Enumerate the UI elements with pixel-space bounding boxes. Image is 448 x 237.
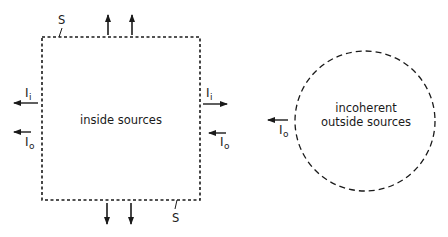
- right-outside-intensity: I o: [209, 133, 230, 151]
- svg-text:I: I: [25, 86, 29, 100]
- diagram-canvas: S S I i I o I i I o inside sources incoh…: [0, 0, 448, 237]
- outside-sources-label-line2: outside sources: [321, 115, 411, 129]
- left-inside-intensity: I i: [14, 86, 38, 103]
- svg-text:i: i: [29, 92, 32, 102]
- svg-text:I: I: [279, 123, 283, 137]
- svg-text:i: i: [210, 92, 213, 102]
- inside-sources-label: inside sources: [80, 113, 162, 127]
- circle-outside-intensity: I o: [268, 120, 289, 139]
- svg-text:I: I: [220, 135, 224, 149]
- svg-text:o: o: [224, 141, 230, 151]
- s-leader-bottom: [175, 200, 177, 209]
- s-leader-top: [59, 28, 62, 37]
- surface-label-bottom: S: [172, 211, 179, 225]
- outside-sources-label-line1: incoherent: [335, 101, 397, 115]
- svg-text:I: I: [206, 86, 210, 100]
- svg-text:o: o: [29, 141, 35, 151]
- left-outside-intensity: I o: [14, 132, 35, 151]
- svg-text:o: o: [283, 129, 289, 139]
- right-inside-intensity: I i: [203, 86, 227, 104]
- surface-label-top: S: [58, 13, 65, 27]
- svg-text:I: I: [25, 135, 29, 149]
